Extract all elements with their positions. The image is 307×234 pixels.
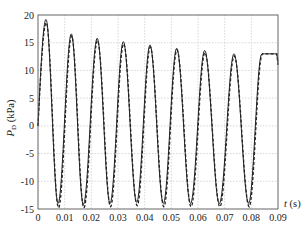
y-tick-label: 0 [29,120,34,131]
x-tick-label: 0.08 [243,212,261,223]
y-tick-label: 10 [24,65,34,76]
series-line-solid [38,19,278,204]
x-tick-label: 0.04 [136,212,154,223]
y-tick-label: 5 [29,93,34,104]
pressure-time-chart: 00.010.020.030.040.050.060.070.080.09 -1… [0,0,307,234]
y-axis-label: PD (kPa) [5,99,18,137]
x-tick-label: 0.03 [109,212,127,223]
y-tick-labels: -15-10-505101520 [21,10,34,215]
y-tick-label: 15 [24,37,34,48]
series-line-dashed [38,23,278,208]
plot-frame [38,15,278,209]
y-axis-label-unit: (kPa) [5,99,17,122]
y-tick-label: -15 [21,204,34,215]
x-axis-label-unit: (s) [290,198,302,210]
y-tick-label: -5 [26,148,34,159]
y-tick-label: 20 [24,10,34,21]
x-tick-label: 0.01 [56,212,74,223]
x-tick-label: 0.07 [216,212,234,223]
y-tick-label: -10 [21,176,34,187]
grid-layer [38,15,278,209]
x-tick-label: 0 [36,212,41,223]
x-tick-labels: 00.010.020.030.040.050.060.070.080.09 [36,212,287,223]
series-layer [38,19,278,207]
x-tick-label: 0.09 [269,212,287,223]
x-axis-label: t (s) [284,198,301,210]
x-tick-label: 0.05 [163,212,181,223]
x-tick-label: 0.02 [83,212,101,223]
x-tick-label: 0.06 [189,212,207,223]
